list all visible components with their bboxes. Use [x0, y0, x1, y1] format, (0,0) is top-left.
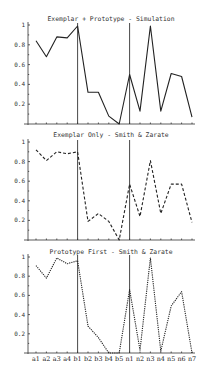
data-series-line	[36, 258, 192, 353]
x-tick-label: b2	[84, 355, 92, 363]
x-tick-label: b4	[105, 355, 113, 363]
y-tick-label: 0.6	[14, 61, 25, 68]
y-tick-label: 0.4	[14, 80, 25, 87]
y-tick-label: 0.2	[14, 216, 25, 223]
x-tick-label: a3	[53, 355, 61, 363]
x-tick-label: b1	[74, 355, 82, 363]
chart-panel-1: Exemplar + Prototype - Simulation0.20.40…	[14, 15, 195, 125]
x-tick-label: n5	[167, 355, 175, 363]
chart-title: Exemplar + Prototype - Simulation	[48, 15, 175, 23]
x-tick-label: n3	[146, 355, 154, 363]
chart-title: Prototype First - Smith & Zarate	[49, 248, 172, 256]
x-tick-label: n1	[126, 355, 134, 363]
x-tick-label: a1	[32, 355, 40, 363]
y-tick-label: 1	[21, 253, 25, 260]
y-tick-label: 0.6	[14, 177, 25, 184]
y-tick-label: 0.2	[14, 100, 25, 107]
x-tick-label: n2	[136, 355, 144, 363]
chart-figure: Exemplar + Prototype - Simulation0.20.40…	[0, 0, 205, 377]
y-tick-label: 1	[21, 138, 25, 145]
chart-panel-3: Prototype First - Smith & Zarate0.20.40.…	[14, 248, 196, 363]
x-tick-label: a4	[63, 355, 71, 363]
chart-panel-2: Exemplar Only - Smith & Zarate0.20.40.60…	[14, 131, 195, 241]
x-tick-label: n6	[178, 355, 186, 363]
data-series-line	[36, 26, 192, 124]
y-tick-label: 0.4	[14, 197, 25, 204]
y-tick-label: 0.6	[14, 291, 25, 298]
y-tick-label: 0.8	[14, 41, 25, 48]
x-tick-label: a2	[42, 355, 50, 363]
y-tick-label: 0.8	[14, 158, 25, 165]
x-tick-label: n7	[188, 355, 196, 363]
data-series-line	[36, 150, 192, 240]
y-tick-label: 0.2	[14, 330, 25, 337]
y-tick-label: 1	[21, 21, 25, 28]
x-tick-label: b3	[94, 355, 102, 363]
y-tick-label: 0.8	[14, 272, 25, 279]
x-tick-label: n4	[157, 355, 165, 363]
chart-title: Exemplar Only - Smith & Zarate	[53, 131, 169, 139]
x-tick-label: b5	[115, 355, 123, 363]
y-tick-label: 0.4	[14, 311, 25, 318]
